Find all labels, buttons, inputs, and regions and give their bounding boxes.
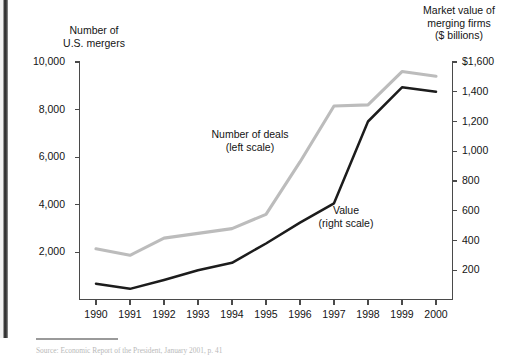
- right-axis-title: Market value of merging firms ($ billion…: [398, 4, 520, 42]
- footnote-divider: [36, 338, 118, 340]
- left-y-tick-label: 2,000: [39, 245, 65, 257]
- right-y-tick-label: 1,400: [462, 85, 488, 97]
- plot-area: 2,0004,0006,0008,00010,000 2004006008001…: [79, 62, 453, 300]
- scan-edge-artifact: [3, 0, 8, 338]
- right-y-tick-label: 1,000: [462, 144, 488, 156]
- series-line-value: [96, 87, 436, 289]
- right-y-tick-label: $1,600: [462, 55, 494, 67]
- left-axis-title: Number of U.S. mergers: [32, 24, 156, 49]
- right-y-tick-label: 400: [462, 234, 480, 246]
- series-lines: [79, 62, 453, 300]
- left-y-tick-label: 10,000: [33, 55, 65, 67]
- series-annotation-value: Value (right scale): [293, 204, 399, 229]
- right-y-tick-label: 1,200: [462, 115, 488, 127]
- left-y-tick-label: 6,000: [39, 150, 65, 162]
- left-y-tick-label: 8,000: [39, 103, 65, 115]
- right-y-tick-label: 800: [462, 174, 480, 186]
- left-y-tick-label: 4,000: [39, 198, 65, 210]
- right-y-tick-label: 600: [462, 204, 480, 216]
- x-tick-label: 2000: [414, 308, 458, 320]
- series-annotation-number-of-deals: Number of deals (left scale): [190, 128, 310, 153]
- source-note: Source: Economic Report of the President…: [36, 346, 222, 355]
- right-y-tick-label: 200: [462, 263, 480, 275]
